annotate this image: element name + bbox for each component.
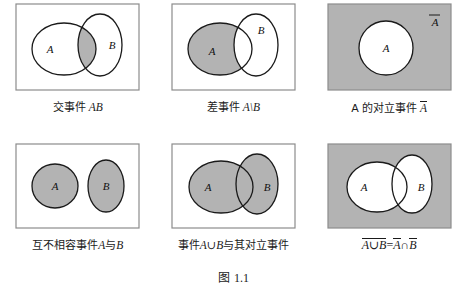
caption-math: A\B: [243, 101, 260, 113]
caption-text: 差事件: [207, 101, 240, 114]
figure-number-prefix: 图: [218, 271, 230, 285]
venn-intersection-svg: A B: [12, 0, 143, 94]
caption-math: AB: [89, 101, 103, 113]
panel-intersection: A B 交事件 AB: [0, 0, 156, 140]
set-a-label: A: [208, 45, 216, 57]
set-b-label: B: [109, 39, 116, 51]
caption-text-mid: 与: [105, 239, 116, 252]
set-a-label: A: [51, 180, 59, 192]
set-a-label: A: [381, 42, 389, 54]
set-b-label: B: [103, 180, 110, 192]
formula-lhs: A∪B: [362, 238, 387, 252]
caption-difference: 差事件 A\B: [207, 101, 260, 115]
set-b-label: B: [264, 181, 271, 193]
caption-union: 事件A∪B与其对立事件: [178, 239, 290, 253]
panel-mutually-exclusive: A B 互不相容事件A与B: [0, 140, 156, 268]
figure-number: 图 1.1: [0, 268, 467, 286]
caption-text: 互不相容事件: [32, 239, 98, 252]
venn-de-morgan: A B: [324, 140, 455, 232]
venn-intersection: A B: [12, 0, 143, 94]
caption-text: A 的对立事件: [351, 102, 417, 115]
panel-grid: A B 交事件 AB: [0, 0, 467, 268]
complement-label-text: A: [430, 16, 438, 28]
venn-mutually-exclusive-svg: A B: [12, 140, 143, 232]
venn-complement-svg: A A: [324, 0, 455, 94]
figure-number-value: 1.1: [234, 271, 249, 285]
panel-complement: A A A 的对立事件 A: [311, 0, 467, 140]
formula-rhs-b: B: [409, 238, 416, 252]
de-morgan-formula: A∪B=A∩B: [362, 238, 417, 253]
set-a-label: A: [359, 181, 367, 193]
caption-text-prefix: 事件: [178, 239, 200, 252]
venn-complement: A A: [324, 0, 455, 94]
formula-rhs-op: ∩: [401, 238, 410, 252]
venn-union-svg: A B: [168, 140, 299, 232]
panel-difference: A B 差事件 A\B: [156, 0, 312, 140]
set-b-label: B: [417, 181, 424, 193]
caption-math: A: [420, 101, 427, 114]
venn-union: A B: [168, 140, 299, 232]
caption-complement: A 的对立事件 A: [351, 101, 427, 116]
venn-mutually-exclusive: A B: [12, 140, 143, 232]
complement-label: A: [429, 15, 440, 28]
venn-difference: A B: [168, 0, 299, 94]
caption-text-suffix: 与其对立事件: [223, 239, 289, 252]
caption-math-b: B: [116, 239, 123, 251]
set-b-label: B: [258, 24, 265, 36]
set-a-label: A: [46, 43, 54, 55]
formula-rhs-a: A: [393, 238, 400, 252]
venn-de-morgan-svg: A B: [324, 140, 455, 232]
caption-intersection: 交事件 AB: [53, 101, 103, 115]
venn-difference-svg: A B: [168, 0, 299, 94]
panel-de-morgan: A B A∪B=A∩B: [311, 140, 467, 268]
caption-math: A∪B: [200, 239, 224, 251]
figure-1-1: A B 交事件 AB: [0, 0, 467, 290]
panel-union: A B 事件A∪B与其对立事件: [156, 140, 312, 268]
set-a-label: A: [204, 181, 212, 193]
caption-mutually-exclusive: 互不相容事件A与B: [32, 239, 123, 253]
caption-text: 交事件: [53, 101, 86, 114]
